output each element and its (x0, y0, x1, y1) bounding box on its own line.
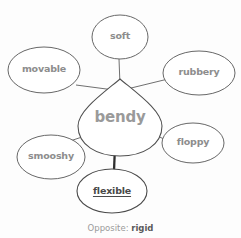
opposite-caption-word: rigid (131, 223, 153, 233)
diagram-canvas (0, 0, 241, 238)
connector-bendy-rubbery (127, 79, 168, 89)
word-web-diagram: soft movable rubbery floppy smooshy flex… (0, 0, 241, 238)
node-floppy-shape[interactable] (162, 123, 224, 163)
node-movable-shape[interactable] (8, 47, 80, 93)
node-rubbery-shape[interactable] (163, 51, 235, 95)
node-soft-shape[interactable] (92, 15, 148, 59)
node-bendy-shape[interactable] (78, 79, 162, 156)
opposite-caption: Opposite: rigid (0, 223, 241, 233)
node-smooshy-shape[interactable] (17, 135, 85, 179)
opposite-caption-prefix: Opposite: (88, 223, 129, 233)
node-flexible-shape[interactable] (77, 169, 147, 213)
